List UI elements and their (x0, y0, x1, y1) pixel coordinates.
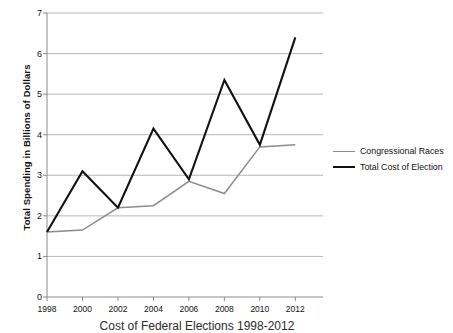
tick-marks (43, 13, 295, 301)
y-tick-label: 3 (37, 170, 42, 180)
chart-caption: Cost of Federal Elections 1998-2012 (47, 319, 347, 333)
y-tick-label: 0 (37, 292, 42, 302)
x-tick-label: 2006 (179, 304, 198, 314)
y-tick-label: 4 (37, 130, 42, 140)
legend-item-congressional-races: Congressional Races (333, 143, 453, 159)
x-tick-label: 2012 (286, 304, 305, 314)
y-axis-title: Total Spending in Billions of Dollars (21, 38, 32, 258)
y-tick-label: 6 (37, 49, 42, 59)
y-tick-label: 1 (37, 251, 42, 261)
x-tick-label: 2002 (108, 304, 127, 314)
x-tick-label: 2004 (144, 304, 163, 314)
legend-item-total-cost-of-election: Total Cost of Election (333, 159, 453, 175)
x-tick-label: 1998 (38, 304, 57, 314)
y-tick-label: 7 (37, 8, 42, 18)
legend-swatch-icon (333, 166, 355, 168)
y-tick-label: 2 (37, 211, 42, 221)
legend-label: Total Cost of Election (360, 162, 443, 172)
x-tick-label: 2000 (73, 304, 92, 314)
x-tick-label: 2008 (215, 304, 234, 314)
gridlines (47, 13, 323, 256)
chart-canvas (47, 13, 323, 297)
legend-label: Congressional Races (360, 146, 444, 156)
axis-lines (47, 13, 323, 297)
y-tick-label: 5 (37, 89, 42, 99)
x-tick-label: 2010 (250, 304, 269, 314)
chart-legend: Congressional Races Total Cost of Electi… (333, 143, 453, 175)
plot-area: 01234567 1998200020022004200620082010201… (47, 13, 323, 297)
series-line (47, 145, 295, 232)
legend-swatch-icon (333, 151, 355, 152)
